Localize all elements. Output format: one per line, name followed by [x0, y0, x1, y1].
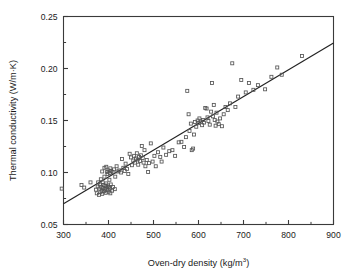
x-axis-title: Oven-dry density (kg/m3) — [148, 256, 249, 267]
data-point-marker — [142, 161, 145, 164]
data-point-marker — [103, 175, 106, 178]
data-point-marker — [187, 113, 190, 116]
data-point-marker — [186, 89, 189, 92]
data-point-marker — [127, 173, 130, 176]
data-point-marker — [148, 162, 151, 165]
data-point-marker — [207, 120, 210, 123]
data-point-marker — [264, 88, 267, 91]
data-point-marker — [157, 151, 160, 154]
data-point-marker — [128, 152, 131, 155]
y-tick-label: 0.15 — [41, 116, 58, 126]
data-point-marker — [108, 178, 111, 181]
data-point-marker — [143, 149, 146, 152]
data-point-marker — [184, 136, 187, 139]
data-point-marker — [210, 110, 213, 113]
data-point-marker — [137, 163, 140, 166]
data-point-marker — [212, 103, 215, 106]
y-tick-label: 0.10 — [41, 168, 58, 178]
data-point-marker — [159, 155, 162, 158]
x-tick-label: 300 — [56, 230, 71, 240]
scatter-chart: 3004005006007008009000.050.100.150.200.2… — [0, 0, 349, 277]
x-tick-label: 700 — [236, 230, 251, 240]
data-point-marker — [145, 159, 148, 162]
data-point-marker — [193, 133, 196, 136]
regression-line — [64, 43, 334, 204]
data-point-marker — [301, 55, 304, 58]
data-point-marker — [226, 109, 229, 112]
x-tick-label: 600 — [191, 230, 206, 240]
data-point-marker — [214, 124, 217, 127]
figure-container: 3004005006007008009000.050.100.150.200.2… — [0, 0, 349, 277]
y-axis-title: Thermal conductivity (W/m·K) — [8, 60, 18, 181]
data-point-marker — [89, 181, 92, 184]
data-point-marker — [174, 154, 177, 157]
data-point-marker — [165, 153, 168, 156]
data-point-marker — [168, 150, 171, 153]
data-point-marker — [171, 149, 174, 152]
data-point-marker — [144, 165, 147, 168]
data-point-marker — [222, 113, 225, 116]
y-tick-label: 0.25 — [41, 12, 58, 22]
data-point-marker — [115, 165, 118, 168]
x-tick-label: 900 — [326, 230, 341, 240]
y-tick-label: 0.20 — [41, 64, 58, 74]
data-point-marker — [208, 123, 211, 126]
y-tick-label: 0.05 — [41, 220, 58, 230]
data-point-marker — [114, 175, 117, 178]
data-point-marker — [234, 105, 237, 108]
data-point-marker — [270, 75, 273, 78]
data-point-marker — [101, 170, 104, 173]
data-point-marker — [211, 82, 214, 85]
data-point-marker — [154, 165, 157, 168]
x-tick-label: 400 — [101, 230, 116, 240]
data-point-marker — [60, 187, 63, 190]
data-point-marker — [121, 157, 124, 160]
data-point-marker — [94, 188, 97, 191]
data-point-marker — [153, 154, 156, 157]
x-tick-label: 500 — [146, 230, 161, 240]
data-point-marker — [130, 156, 133, 159]
data-point-marker — [256, 84, 259, 87]
data-point-marker — [149, 142, 152, 145]
data-point-marker — [140, 144, 143, 147]
data-point-marker — [237, 95, 240, 98]
data-point-marker — [276, 66, 279, 69]
data-point-marker — [183, 146, 186, 149]
data-point-marker — [189, 122, 192, 125]
data-point-marker — [151, 160, 154, 163]
data-point-marker — [162, 146, 165, 149]
data-point-marker — [219, 117, 222, 120]
x-tick-label: 800 — [281, 230, 296, 240]
data-point-marker — [124, 162, 127, 165]
data-point-marker — [244, 91, 247, 94]
data-point-marker — [147, 170, 150, 173]
data-point-marker — [231, 62, 234, 65]
data-point-marker — [160, 160, 163, 163]
data-points — [60, 55, 303, 197]
data-point-marker — [247, 82, 250, 85]
data-point-marker — [240, 78, 243, 81]
data-point-marker — [220, 125, 223, 128]
